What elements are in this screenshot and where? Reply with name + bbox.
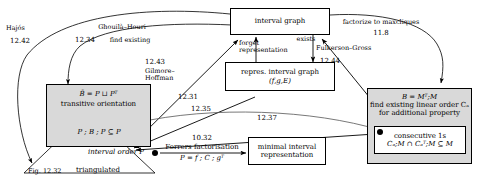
edge-label-hajos: Hajós — [6, 25, 40, 32]
edge-label-12-43: 12.43 — [145, 58, 175, 66]
node-minimal-interval-representation[interactable]: minimal interval representation — [248, 137, 326, 165]
node-transitive-orientation[interactable]: B̄ = P ⊔ Pᵀ transitive orientation — [46, 84, 151, 147]
node-consecutive-ones[interactable]: consecutive 1s Cₐ;M ∩ Cₐᵀ;M ⊆ M — [374, 126, 466, 154]
edge-label-ferrers-formula: P = f ; C ; gᵀ — [167, 154, 237, 162]
edge-label-12-35: 12.35 — [187, 105, 215, 113]
label-fig-ref: Fig. 12.32 — [28, 168, 68, 175]
edge-label-12-31: 12.31 — [174, 93, 202, 101]
node-interval-graph[interactable]: interval graph — [230, 8, 330, 35]
node-repres-interval-graph-line2: (f,g,E) — [269, 77, 291, 85]
edge-label-ghouila-houri: Ghouilà–Houri — [91, 24, 153, 31]
node-matrix-line3: for additional property — [379, 109, 460, 117]
node-minimal-interval-representation-line2: representation — [261, 151, 313, 159]
label-pbp: P ; B ; P ⊆ P — [64, 128, 134, 136]
node-repres-interval-graph-line1: repres. interval graph — [241, 68, 319, 76]
node-matrix-line2: find existing linear order Cₐ — [370, 101, 469, 109]
edge-label-factorize-maxcliques-number: 11.8 — [367, 29, 395, 37]
label-triangulated: triangulated — [68, 166, 128, 174]
edge-label-fulkerson-gross-number: 12.44 — [320, 57, 350, 65]
edge-label-12-37: 12.37 — [253, 114, 281, 122]
consecutive-ones-bullet — [377, 129, 383, 135]
node-consecutive-ones-formula: Cₐ;M ∩ Cₐᵀ;M ⊆ M — [387, 140, 453, 148]
node-minimal-interval-representation-line1: minimal interval — [258, 143, 316, 151]
edge-label-find-existing: find existing — [106, 37, 154, 44]
edge-label-ferrers-number: 10.32 — [188, 134, 216, 142]
edge-label-factorize-maxcliques: factorize to maxcliques — [337, 19, 425, 26]
edge-label-exists: exists — [288, 36, 324, 43]
edge-label-fulkerson-gross: Fulkerson–Gross — [316, 45, 382, 52]
label-interval-order: interval order P — [78, 148, 154, 156]
edge-label-ferrers-name: Ferrers factorisation — [159, 143, 245, 151]
edge-label-hajos-number: 12.42 — [10, 37, 44, 45]
node-repres-interval-graph[interactable]: repres. interval graph (f,g,E) — [225, 62, 335, 91]
edge-label-gilmore-hoffman: Gilmore– Hoffman — [145, 68, 185, 83]
node-transitive-orientation-label: transitive orientation — [61, 100, 136, 108]
edge-label-ghouila-houri-number: 12.34 — [71, 36, 99, 44]
node-matrix-formula: B = Mᵀ;M — [402, 93, 437, 101]
node-consecutive-ones-label: consecutive 1s — [394, 132, 446, 140]
diagram-canvas: interval graph repres. interval graph (f… — [0, 0, 478, 186]
node-transitive-orientation-formula: B̄ = P ⊔ Pᵀ — [79, 90, 117, 98]
node-interval-graph-label: interval graph — [255, 17, 306, 25]
